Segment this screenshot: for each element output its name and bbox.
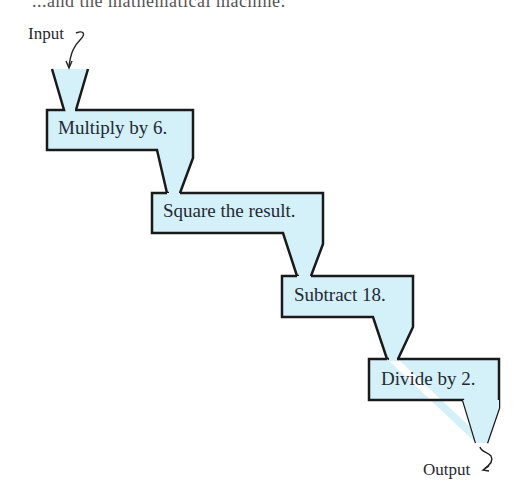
machine-shapes [0, 0, 523, 497]
function-machine-diagram: ...and the mathematical machine: [0, 0, 523, 497]
step-1-label: Multiply by 6. [58, 117, 167, 139]
output-arrow-icon [480, 447, 492, 471]
output-label: Output [423, 460, 470, 480]
input-arrow-icon [66, 32, 83, 68]
step-2-label: Square the result. [163, 200, 295, 222]
step-3-label: Subtract 18. [294, 284, 386, 306]
input-label: Input [28, 24, 64, 44]
step-4-label: Divide by 2. [381, 368, 475, 390]
